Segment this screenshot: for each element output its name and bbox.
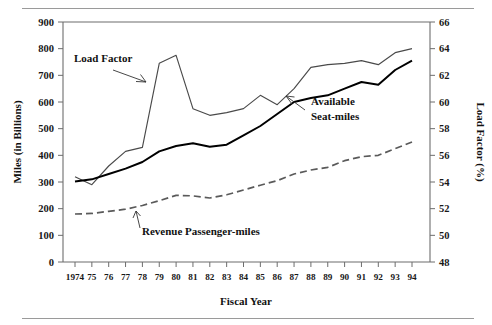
- y-axis-right-tick-label: 48: [439, 257, 450, 268]
- annotation-available-seat-miles-label-line1: Available: [311, 95, 355, 107]
- x-axis-tick-label: 75: [87, 272, 97, 282]
- x-axis-tick-label: 82: [205, 272, 215, 282]
- x-axis-tick-label: 87: [289, 272, 299, 282]
- x-axis-tick-label: 85: [256, 272, 266, 282]
- y-axis-title-right: Load Factor (%): [474, 102, 487, 182]
- series-group: [75, 49, 412, 214]
- bottom-divider-rule: [22, 318, 474, 319]
- x-axis-tick-label: 93: [391, 272, 401, 282]
- annotation-load-factor-label: Load Factor: [74, 52, 132, 64]
- annotation-available-seat-miles-label-line2: Seat-miles: [311, 110, 360, 122]
- figure-container: 0100200300400500600700800900485052545658…: [0, 0, 492, 325]
- series-line-available-seat-miles: [75, 61, 412, 182]
- series-line-revenue-passenger-miles: [75, 142, 412, 214]
- annotation-load-factor: Load Factor: [74, 52, 146, 82]
- y-axis-left-tick-label: 200: [38, 203, 54, 214]
- y-axis-right-tick-label: 64: [439, 43, 450, 54]
- y-axis-right-tick-label: 54: [439, 177, 450, 188]
- x-axis-tick-label: 80: [172, 272, 182, 282]
- y-axis-left-tick-label: 0: [49, 257, 54, 268]
- x-axis-tick-label: 86: [273, 272, 283, 282]
- y-axis-left-tick-label: 100: [38, 230, 54, 241]
- x-axis-tick-label: 76: [104, 272, 114, 282]
- x-axis-tick-label: 88: [306, 272, 316, 282]
- annotation-revenue-passenger-miles-arrow: [133, 211, 141, 228]
- y-axis-right-tick-label: 50: [439, 230, 450, 241]
- y-axis-left-tick-label: 500: [38, 123, 54, 134]
- x-axis-tick-label: 77: [121, 272, 131, 282]
- y-axis-right-tick-label: 66: [439, 17, 450, 28]
- annotation-load-factor-arrow: [113, 70, 146, 82]
- y-axis-left-tick-label: 900: [38, 17, 54, 28]
- y-axis-right-tick-label: 52: [439, 203, 450, 214]
- x-axis-tick-label: 92: [374, 272, 384, 282]
- y-axis-left-tick-label: 400: [38, 150, 54, 161]
- x-axis-tick-label: 89: [323, 272, 333, 282]
- x-axis-tick-label: 1974: [66, 272, 85, 282]
- y-axis-left-tick-label: 800: [38, 43, 54, 54]
- top-divider-rule: [22, 8, 474, 9]
- x-axis-tick-label: 90: [340, 272, 350, 282]
- annotation-revenue-passenger-miles: Revenue Passenger-miles: [133, 211, 261, 237]
- x-axis-tick-label: 81: [188, 272, 198, 282]
- x-axis-tick-label: 79: [155, 272, 165, 282]
- y-axis-right-tick-label: 56: [439, 150, 450, 161]
- annotation-revenue-passenger-miles-label: Revenue Passenger-miles: [142, 225, 261, 237]
- x-axis-tick-label: 84: [239, 272, 249, 282]
- y-axis-left-tick-label: 300: [38, 177, 54, 188]
- line-chart: 0100200300400500600700800900485052545658…: [0, 0, 492, 325]
- y-axis-left-tick-label: 600: [38, 97, 54, 108]
- y-axis-right-tick-label: 60: [439, 97, 450, 108]
- series-line-load-factor: [75, 49, 412, 185]
- y-axis-right-tick-label: 58: [439, 123, 450, 134]
- y-axis-title-left: Miles (in Billions): [11, 100, 24, 183]
- x-axis-tick-label: 94: [407, 272, 417, 282]
- x-axis-title: Fiscal Year: [220, 295, 272, 307]
- x-axis-tick-label: 91: [357, 272, 367, 282]
- x-axis-tick-label: 83: [222, 272, 232, 282]
- annotation-available-seat-miles: Available Seat-miles: [286, 95, 360, 122]
- annotation-available-seat-miles-arrow: [286, 96, 305, 110]
- x-axis-tick-label: 78: [138, 272, 148, 282]
- y-axis-right-tick-label: 62: [439, 70, 450, 81]
- y-axis-left-tick-label: 700: [38, 70, 54, 81]
